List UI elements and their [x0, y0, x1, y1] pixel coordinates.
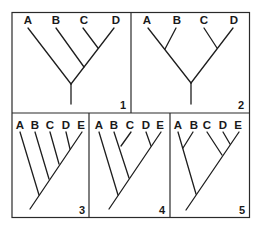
branch-a — [99, 132, 118, 195]
taxon-label-c: C — [203, 119, 211, 131]
taxon-label-d: D — [142, 119, 150, 131]
branch-e-spine — [109, 132, 161, 209]
taxon-label-e: E — [77, 119, 85, 131]
tree-branches — [28, 28, 114, 104]
panel-1: A B C D 1 — [24, 14, 126, 111]
branch-b — [183, 132, 193, 148]
taxon-label-d: D — [230, 14, 238, 26]
branch-c — [204, 28, 217, 48]
branch-a — [148, 28, 191, 83]
taxon-label-b: B — [190, 119, 198, 131]
taxon-label-e: E — [234, 119, 242, 131]
branch-d — [146, 132, 151, 146]
taxon-label-a: A — [143, 14, 151, 26]
branch-e-spine — [186, 132, 239, 210]
branch-a — [20, 132, 39, 195]
branch-d-spine — [71, 28, 114, 84]
branch-d — [191, 28, 233, 83]
taxon-label-a: A — [95, 119, 103, 131]
panel-number: 5 — [239, 204, 245, 216]
taxon-label-b: B — [31, 119, 39, 131]
taxon-label-c: C — [80, 14, 88, 26]
panel-number: 1 — [120, 99, 126, 111]
tree-branches — [178, 132, 239, 210]
panel-5: A B C D E 5 — [174, 119, 245, 216]
taxon-label-b: B — [173, 14, 181, 26]
tree-branches — [20, 132, 82, 209]
panel-4: A B C D E 4 — [95, 119, 166, 216]
taxon-label-a: A — [24, 14, 32, 26]
taxon-label-c: C — [200, 14, 208, 26]
panel-number: 4 — [159, 204, 166, 216]
taxon-label-a: A — [174, 119, 182, 131]
taxon-label-b: B — [110, 119, 118, 131]
taxon-label-a: A — [16, 119, 24, 131]
branch-b — [56, 28, 84, 67]
panel-3: A B C D E 3 — [16, 119, 85, 216]
taxon-label-d: D — [219, 119, 227, 131]
branch-c — [83, 28, 98, 48]
taxon-label-d: D — [62, 119, 70, 131]
branch-d — [223, 132, 230, 144]
branch-b — [35, 132, 49, 179]
branch-c — [121, 132, 131, 146]
taxon-label-c: C — [46, 119, 54, 131]
panel-number: 3 — [79, 204, 85, 216]
taxon-label-b: B — [52, 14, 60, 26]
panel-2: A B C D 2 — [143, 14, 244, 111]
panel-number: 2 — [238, 99, 244, 111]
branch-a — [28, 28, 71, 84]
cladogram-figure: A B C D 1 A B C D 2 A B C D E — [0, 0, 258, 226]
tree-branches — [148, 28, 233, 104]
taxon-label-c: C — [126, 119, 134, 131]
branch-c — [50, 132, 59, 164]
branch-c — [207, 132, 222, 155]
branch-d — [66, 132, 70, 149]
branch-b — [165, 28, 176, 49]
tree-branches — [99, 132, 161, 209]
taxon-label-e: E — [156, 119, 164, 131]
taxon-label-d: D — [112, 14, 120, 26]
